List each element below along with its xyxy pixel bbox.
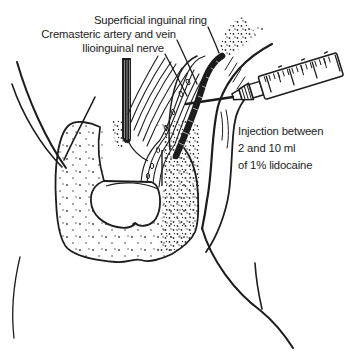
anatomy-line-drawing: Superficial inguinal ring Cremasteric ar… — [0, 0, 346, 358]
meatus-dot — [132, 222, 135, 225]
stipple-cloud-right — [248, 24, 264, 40]
label-cremasteric-artery-vein: Cremasteric artery and vein — [41, 28, 176, 40]
right-thigh-line — [202, 228, 293, 348]
left-thigh-line — [13, 257, 20, 338]
injection-note-line-3: of 1% lidocaine — [238, 159, 312, 171]
injection-note-line-1: Injection between — [238, 125, 323, 137]
label-ilioinguinal-nerve: Ilioinguinal nerve — [82, 42, 164, 54]
injection-note-line-2: 2 and 10 ml — [238, 142, 295, 154]
label-superficial-inguinal-ring: Superficial inguinal ring — [94, 14, 207, 26]
syringe — [228, 49, 343, 108]
glans-penis — [91, 181, 160, 228]
medical-illustration-figure: Superficial inguinal ring Cremasteric ar… — [0, 0, 346, 358]
leader-superficial-ring — [208, 27, 219, 53]
right-thigh-branch-line — [255, 263, 262, 309]
injection-note: Injection between 2 and 10 ml of 1% lido… — [238, 125, 323, 171]
leader-cremasteric — [177, 40, 197, 84]
